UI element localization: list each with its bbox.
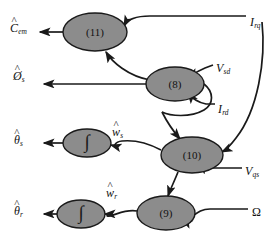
input-symbol-omega: Ω [252, 205, 261, 219]
input-label-v-sd: Vsd [216, 62, 230, 74]
node-10-label: (10) [183, 149, 202, 162]
node-10[interactable]: (10) [161, 137, 223, 173]
output-subscript-c-em: em [18, 27, 27, 36]
input-subscript-v-qs: qs [252, 170, 259, 179]
edge-node10-to-integ-s [111, 141, 161, 150]
edge-node8-to-node11 [106, 52, 150, 80]
output-subscript-theta-s: s [20, 139, 23, 148]
output-subscript-theta-r: r [20, 210, 23, 219]
node-9[interactable]: (9) [137, 196, 195, 230]
signal-label-w-s: ^ws [112, 126, 123, 138]
hat-accent-w-s: ^ [112, 119, 120, 130]
integrator-rotor[interactable]: ∫ [57, 200, 105, 228]
node-8[interactable]: (8) [146, 67, 204, 101]
input-subscript-i-rd: rd [222, 108, 228, 117]
output-label-theta-r: ^θr [14, 205, 23, 217]
output-label-theta-s: ^θs [14, 134, 23, 146]
signal-subscript-w-s: s [120, 131, 123, 140]
hat-accent-w-r: ^ [106, 180, 114, 191]
integrator-stator[interactable]: ∫ [63, 129, 111, 157]
node-11-label: (11) [86, 26, 104, 39]
hat-accent-theta-s: ^ [14, 127, 20, 138]
input-subscript-i-rq: rq [254, 21, 260, 30]
input-label-omega: Ω [252, 206, 261, 218]
input-label-i-rd: Ird [218, 103, 228, 115]
edge-node10-to-node9 [168, 172, 178, 196]
estimator-block-diagram: (11) (8) (10) (9) ∫ ∫ [0, 0, 280, 241]
hat-accent-c-em: ^ [10, 15, 18, 26]
edge-right-rail-to-node10 [222, 22, 263, 152]
input-label-i-rq: Irq [250, 16, 260, 28]
input-label-v-qs: Vqs [245, 165, 259, 177]
node-8-label: (8) [169, 78, 182, 91]
output-label-c-em: ^Cem [10, 22, 27, 34]
hat-accent-theta-r: ^ [14, 198, 20, 209]
hat-accent-phi-s: ^ [13, 63, 22, 74]
edge-irq-to-node11 [124, 16, 246, 26]
input-subscript-v-sd: sd [223, 67, 230, 76]
edge-node9-to-integ-r [105, 211, 137, 217]
node-9-label: (9) [160, 207, 173, 220]
node-layer: (11) (8) (10) (9) ∫ ∫ [57, 13, 223, 230]
output-label-phi-s: ^Øs [13, 70, 25, 82]
output-subscript-phi-s: s [22, 75, 25, 84]
diagram-canvas: (11) (8) (10) (9) ∫ ∫ [0, 0, 280, 241]
signal-subscript-w-r: r [114, 192, 117, 201]
signal-label-w-r: ^wr [106, 187, 117, 199]
node-11[interactable]: (11) [63, 13, 127, 51]
